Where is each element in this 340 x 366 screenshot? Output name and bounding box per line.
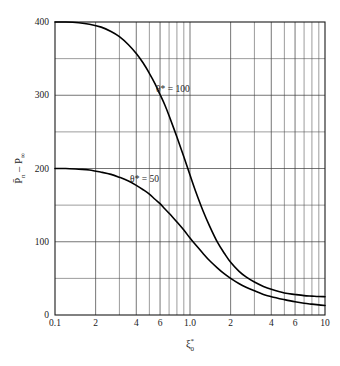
x-axis-label: ξ*0 — [186, 337, 195, 353]
y-axis-tick-labels: 0100200300400 — [35, 17, 50, 320]
y-tick-label: 0 — [44, 310, 49, 320]
y-tick-label: 100 — [35, 237, 50, 247]
x-tick-label: 6 — [158, 318, 163, 328]
curve-label-theta-100: θ* = 100 — [156, 84, 190, 94]
x-tick-label: 0.1 — [49, 318, 61, 328]
x-axis-title-text: ξ*0 — [186, 337, 195, 353]
x-tick-label: 10 — [320, 318, 330, 328]
x-tick-label: 4 — [269, 318, 274, 328]
x-tick-label: 2 — [228, 318, 233, 328]
figure-container: 0.12461.024610 0100200300400 θ* = 100θ* … — [0, 0, 340, 366]
chart-plot: 0.12461.024610 0100200300400 θ* = 100θ* … — [0, 0, 340, 366]
y-tick-label: 300 — [35, 90, 50, 100]
y-tick-label: 400 — [35, 17, 50, 27]
y-axis-title-text: P̄n – P∞ — [13, 153, 27, 184]
y-tick-label: 200 — [35, 164, 50, 174]
x-tick-label: 2 — [93, 318, 98, 328]
x-tick-label: 1.0 — [184, 318, 196, 328]
curve-label-theta-50: θ* = 50 — [130, 174, 159, 184]
x-tick-label: 4 — [134, 318, 139, 328]
x-axis-tick-labels: 0.12461.024610 — [49, 318, 330, 328]
x-tick-label: 6 — [293, 318, 298, 328]
y-axis-label: P̄n – P∞ — [13, 153, 27, 184]
